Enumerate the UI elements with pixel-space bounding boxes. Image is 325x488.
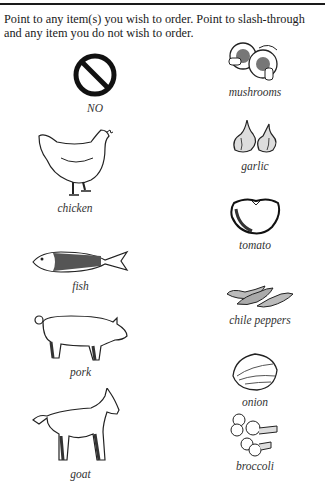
item-label: chile peppers bbox=[205, 314, 315, 326]
chicken-icon bbox=[35, 128, 115, 200]
garlic-icon bbox=[229, 118, 281, 156]
tomato-icon bbox=[228, 195, 282, 235]
item-onion[interactable]: onion bbox=[205, 352, 305, 408]
item-label: onion bbox=[205, 396, 305, 408]
item-fish[interactable]: fish bbox=[28, 248, 133, 292]
onion-icon bbox=[231, 352, 279, 392]
item-label: tomato bbox=[205, 239, 305, 251]
item-garlic[interactable]: garlic bbox=[205, 118, 305, 172]
item-label: fish bbox=[28, 280, 133, 292]
item-label: goat bbox=[28, 468, 133, 480]
item-goat[interactable]: goat bbox=[28, 388, 133, 480]
pig-icon bbox=[31, 312, 131, 364]
item-label: broccoli bbox=[205, 460, 305, 472]
broccoli-icon bbox=[227, 412, 283, 458]
fish-icon bbox=[31, 248, 131, 274]
mushrooms-icon bbox=[225, 40, 285, 82]
instructions-text: Point to any item(s) you wish to order. … bbox=[4, 12, 322, 40]
item-tomato[interactable]: tomato bbox=[205, 195, 305, 251]
item-label: garlic bbox=[205, 160, 305, 172]
goat-icon bbox=[31, 388, 131, 466]
item-no[interactable]: NO bbox=[50, 52, 140, 114]
no-symbol-icon bbox=[72, 52, 118, 98]
item-label: NO bbox=[50, 102, 140, 114]
item-mushrooms[interactable]: mushrooms bbox=[200, 40, 310, 98]
item-label: pork bbox=[28, 366, 133, 378]
item-chicken[interactable]: chicken bbox=[30, 128, 120, 214]
item-broccoli[interactable]: broccoli bbox=[205, 412, 305, 472]
item-label: mushrooms bbox=[200, 86, 310, 98]
item-label: chicken bbox=[30, 202, 120, 214]
top-rule bbox=[0, 3, 325, 5]
item-chile-peppers[interactable]: chile peppers bbox=[205, 282, 315, 326]
chile-peppers-icon bbox=[225, 282, 295, 308]
item-pork[interactable]: pork bbox=[28, 312, 133, 378]
